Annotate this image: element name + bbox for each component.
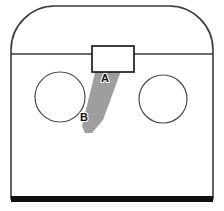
marker-label-a: A [101,72,109,84]
enclosure-diagram: Bagged cabinet front with diagonal strap… [0,0,224,211]
diagram-canvas: Bagged cabinet front with diagonal strap… [0,0,224,211]
top-latch-rectangle [92,46,134,72]
right-port-circle [139,75,187,123]
marker-label-b: B [80,111,88,123]
bottom-base-bar [11,196,213,202]
left-port-circle [35,72,85,122]
